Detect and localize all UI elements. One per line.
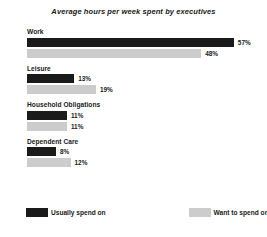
bar-value-work-usually: 57% <box>238 38 251 47</box>
bar-chart: Average hours per week spent by executiv… <box>0 0 267 237</box>
legend-item-usually-spend-on: Usually spend on <box>26 208 106 217</box>
bar-group-household-obligations: Household Obligations 11% 11% <box>27 101 252 131</box>
bar-row-household-want: 11% <box>27 122 252 131</box>
bar-value-dependent-want: 12% <box>75 158 88 167</box>
bar-leisure-usually <box>27 74 74 83</box>
bar-value-household-want: 11% <box>71 122 83 131</box>
bar-row-work-usually: 57% <box>27 38 252 47</box>
bar-value-dependent-usually: 8% <box>60 147 69 156</box>
category-label-dependent-care: Dependent Care <box>27 138 252 145</box>
bar-row-leisure-usually: 13% <box>27 74 252 83</box>
bar-row-dependent-usually: 8% <box>27 147 252 156</box>
bar-household-usually <box>27 111 67 120</box>
bar-dependent-usually <box>27 147 56 156</box>
bar-group-leisure: Leisure 13% 19% <box>27 65 252 95</box>
chart-legend: Usually spend on Want to spend on <box>26 208 267 217</box>
chart-title: Average hours per week spent by executiv… <box>0 7 267 16</box>
legend-item-want-to-spend-on: Want to spend on <box>189 208 267 217</box>
bar-value-work-want: 48% <box>205 49 218 58</box>
bar-dependent-want <box>27 158 71 167</box>
bar-work-want <box>27 49 201 58</box>
category-label-work: Work <box>27 28 252 35</box>
bar-value-leisure-want: 19% <box>100 85 113 94</box>
bar-row-dependent-want: 12% <box>27 158 252 167</box>
legend-swatch-want-to-spend-on <box>189 208 211 217</box>
bar-work-usually <box>27 38 234 47</box>
legend-label-want-to-spend-on: Want to spend on <box>214 208 267 217</box>
category-label-leisure: Leisure <box>27 65 252 72</box>
bar-group-work: Work 57% 48% <box>27 28 252 58</box>
plot-area: Work 57% 48% Leisure 13% 19% Hou <box>27 28 252 174</box>
legend-label-usually-spend-on: Usually spend on <box>51 208 106 217</box>
bar-row-leisure-want: 19% <box>27 85 252 94</box>
bar-row-work-want: 48% <box>27 49 252 58</box>
bar-value-leisure-usually: 13% <box>78 74 91 83</box>
bar-row-household-usually: 11% <box>27 111 252 120</box>
bar-household-want <box>27 122 67 131</box>
category-label-household-obligations: Household Obligations <box>27 101 252 108</box>
bar-value-household-usually: 11% <box>71 111 83 120</box>
bar-leisure-want <box>27 85 96 94</box>
legend-swatch-usually-spend-on <box>26 208 48 217</box>
bar-group-dependent-care: Dependent Care 8% 12% <box>27 138 252 168</box>
